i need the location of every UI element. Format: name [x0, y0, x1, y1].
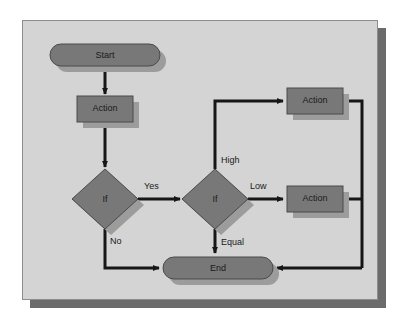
- edge-label-low: Low: [250, 181, 267, 191]
- node-action2[interactable]: Action: [287, 88, 343, 114]
- edge-action2-rail: [343, 101, 362, 268]
- end-label: End: [210, 263, 226, 273]
- diagram-canvas: Start Action If If Action: [0, 0, 410, 328]
- node-if1[interactable]: If: [72, 169, 138, 229]
- node-start[interactable]: Start: [50, 44, 160, 66]
- start-label: Start: [95, 50, 115, 60]
- edge-label-equal: Equal: [221, 237, 244, 247]
- action1-label: Action: [92, 103, 117, 113]
- node-action1[interactable]: Action: [77, 96, 133, 122]
- if2-label: If: [212, 194, 218, 204]
- edge-label-high: High: [221, 155, 240, 165]
- node-if2[interactable]: If: [182, 169, 248, 229]
- edge-label-yes: Yes: [144, 181, 159, 191]
- action2-label: Action: [302, 95, 327, 105]
- if1-label: If: [102, 194, 108, 204]
- nodes: Start Action If If Action: [50, 44, 343, 279]
- edge-if1-end: [105, 229, 159, 268]
- node-action3[interactable]: Action: [287, 186, 343, 212]
- node-end[interactable]: End: [163, 257, 273, 279]
- action3-label: Action: [302, 193, 327, 203]
- flowchart-graphic: Start Action If If Action: [0, 0, 410, 328]
- node-shadows: [56, 50, 349, 285]
- edge-label-no: No: [110, 236, 122, 246]
